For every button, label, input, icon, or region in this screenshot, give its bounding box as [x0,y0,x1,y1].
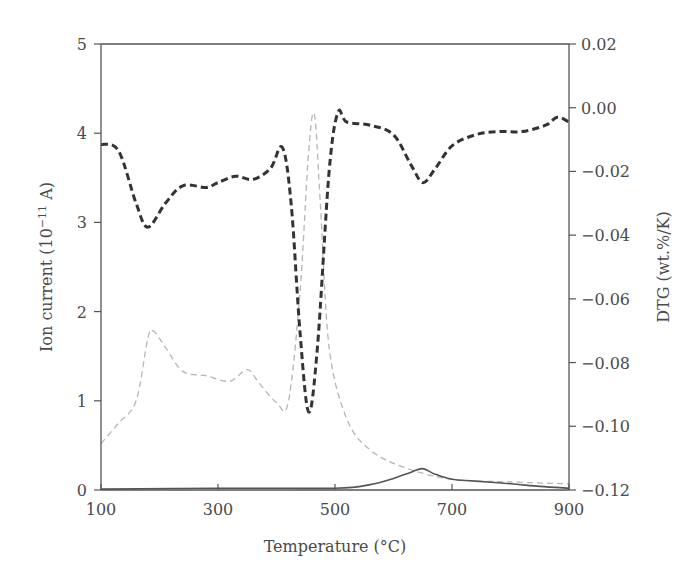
y-tick-label: 5 [77,35,87,54]
series-layer [101,110,569,489]
x-axis-title: Temperature (°C) [264,537,407,556]
x-tick-label: 700 [437,500,468,519]
axes [101,44,569,490]
y2-tick-label: −0.10 [581,417,630,436]
x-tick-label: 900 [554,500,585,519]
y2-ticks: 0.020.00−0.02−0.04−0.06−0.08−0.10−0.12 [569,35,630,500]
x-tick-label: 500 [320,500,351,519]
x-tick-label: 300 [203,500,234,519]
y-ticks: 012345 [77,35,101,500]
series-dtg-line [101,110,569,412]
dtg-ms-chart: 100300500700900 012345 0.020.00−0.02−0.0… [0,0,695,579]
y-axis-title-base: Ion current (10 [37,228,56,352]
x-tick-label: 100 [86,500,117,519]
y-tick-label: 4 [77,124,87,143]
y-axis-title: Ion current (10−11 A) [36,182,56,352]
y2-axis-title: DTG (wt.%/K) [654,211,673,323]
y-tick-label: 3 [77,213,87,232]
y2-tick-label: 0.02 [581,35,617,54]
y2-tick-label: 0.00 [581,99,617,118]
y-axis-title-exponent: −11 [36,205,49,228]
y2-tick-label: −0.08 [581,354,630,373]
y2-tick-label: −0.02 [581,162,630,181]
y2-tick-label: −0.04 [581,226,630,245]
y-tick-label: 0 [77,481,87,500]
y2-tick-label: −0.06 [581,290,630,309]
series-ion-current-m-z-a-line [101,113,569,484]
y-tick-label: 2 [77,303,87,322]
y2-tick-label: −0.12 [581,481,630,500]
y-tick-label: 1 [77,392,87,411]
y-axis-title-tail: A) [37,182,56,205]
